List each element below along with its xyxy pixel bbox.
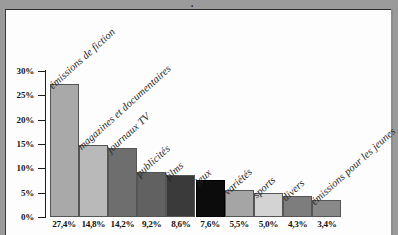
value-label-4: 8,6% xyxy=(164,219,197,229)
y-tick-mark xyxy=(38,120,45,121)
y-axis-label: 5% xyxy=(4,188,34,198)
y-tick-mark xyxy=(38,144,45,145)
value-label-7: 5,0% xyxy=(252,219,285,229)
value-label-8: 4,3% xyxy=(281,219,314,229)
y-axis-label: 0% xyxy=(4,212,34,222)
category-label-0: émissions de fiction xyxy=(46,26,116,91)
y-tick-mark xyxy=(38,168,45,169)
y-axis-line xyxy=(45,70,46,218)
y-axis-label: 25% xyxy=(4,90,34,100)
bar-3 xyxy=(137,172,166,217)
value-label-9: 3,4% xyxy=(310,219,343,229)
y-axis-label: 15% xyxy=(4,139,34,149)
y-axis-label: 10% xyxy=(4,163,34,173)
value-label-6: 5,5% xyxy=(223,219,256,229)
bar-1 xyxy=(79,145,108,217)
y-axis-label: 30% xyxy=(4,66,34,76)
bar-2 xyxy=(108,148,137,217)
value-label-1: 14,8% xyxy=(77,219,110,229)
value-label-3: 9,2% xyxy=(135,219,168,229)
y-axis-label: 20% xyxy=(4,115,34,125)
y-tick-mark xyxy=(38,217,45,218)
category-label-9: émissions pour les jeunes xyxy=(309,126,398,207)
bar-4 xyxy=(166,175,195,217)
value-label-2: 14,2% xyxy=(106,219,139,229)
y-tick-mark xyxy=(38,71,45,72)
y-tick-mark xyxy=(38,95,45,96)
bar-0 xyxy=(50,84,79,217)
y-tick-mark xyxy=(38,193,45,194)
